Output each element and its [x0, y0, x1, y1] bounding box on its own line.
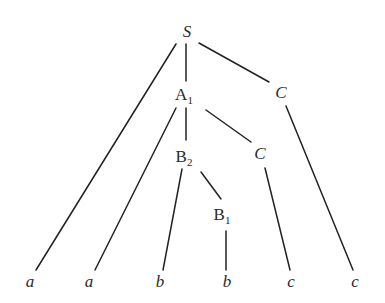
node-S: S — [183, 22, 192, 41]
edge-A1-to-C_mid — [206, 110, 251, 142]
node-B1: B1 — [214, 205, 231, 226]
node-C_mid: C — [254, 144, 266, 163]
edge-S-to-a1 — [36, 44, 176, 270]
edge-C_top-to-c2 — [286, 106, 353, 270]
node-B2: B2 — [176, 147, 193, 168]
tree-nodes: SA1CB2CB1aabbcc — [26, 22, 359, 291]
node-label: S — [183, 22, 192, 41]
node-label: C — [275, 83, 287, 102]
edge-C_mid-to-c1 — [265, 168, 290, 270]
node-subscript: 2 — [187, 156, 193, 168]
node-subscript: 1 — [187, 94, 193, 106]
node-label: c — [351, 272, 359, 291]
edge-A1-to-a2 — [95, 108, 176, 270]
node-label: A — [175, 85, 188, 104]
node-label: a — [85, 272, 94, 291]
node-b1: b — [156, 272, 165, 291]
node-label: b — [223, 272, 232, 291]
node-A1: A1 — [175, 85, 193, 106]
node-label: a — [26, 272, 35, 291]
node-label: B — [214, 205, 225, 224]
node-C_top: C — [275, 83, 287, 102]
node-b2: b — [223, 272, 232, 291]
node-label: c — [287, 272, 295, 291]
node-subscript: 1 — [225, 214, 231, 226]
tree-edges — [36, 43, 353, 270]
node-label: C — [254, 144, 266, 163]
node-c2: c — [351, 272, 359, 291]
node-a2: a — [85, 272, 94, 291]
node-a1: a — [26, 272, 35, 291]
edge-B2-to-B1 — [201, 172, 221, 199]
node-c1: c — [287, 272, 295, 291]
parse-tree-diagram: SA1CB2CB1aabbcc — [0, 0, 385, 303]
node-label: B — [176, 147, 187, 166]
edge-B2-to-b1 — [163, 169, 182, 270]
node-label: b — [156, 272, 165, 291]
edge-S-to-C_top — [199, 43, 269, 82]
